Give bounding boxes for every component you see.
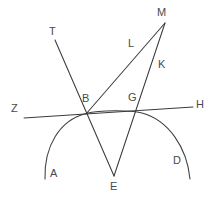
point-label-H: H bbox=[196, 99, 204, 110]
geometry-canvas bbox=[0, 0, 214, 198]
arc-A-D bbox=[45, 111, 190, 179]
point-label-K: K bbox=[158, 59, 166, 70]
point-label-M: M bbox=[157, 7, 166, 18]
point-label-D: D bbox=[173, 155, 181, 166]
point-label-E: E bbox=[110, 181, 118, 192]
point-label-G: G bbox=[128, 92, 137, 103]
geometry-figure: T M L K B G Z H A D E bbox=[0, 0, 214, 198]
line-Z-H bbox=[24, 107, 193, 118]
point-label-A: A bbox=[50, 168, 58, 179]
line-E-M bbox=[114, 23, 165, 176]
point-label-T: T bbox=[49, 26, 56, 37]
point-label-Z: Z bbox=[11, 103, 18, 114]
point-label-L: L bbox=[128, 38, 134, 49]
line-B-M bbox=[86, 23, 165, 114]
point-label-B: B bbox=[82, 93, 90, 104]
line-T-E bbox=[55, 40, 114, 176]
